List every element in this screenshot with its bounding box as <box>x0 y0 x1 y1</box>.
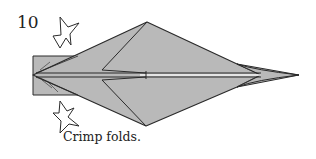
origami-diagram <box>0 0 316 159</box>
crimp-arrow-top-icon <box>53 17 79 48</box>
caption: Crimp folds. <box>63 131 141 144</box>
